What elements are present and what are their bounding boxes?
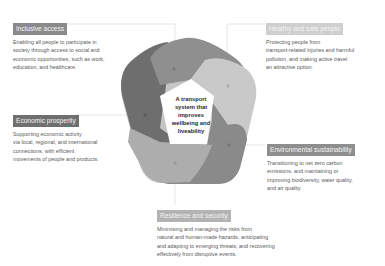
description-line: transport-related injuries and harmful — [266, 46, 384, 54]
description-line: Minimising and managing the risks from — [157, 225, 307, 233]
description-line: via local, regional, and international — [13, 138, 128, 146]
description-line: Transitioning to net zero carbon — [267, 159, 385, 167]
center-title: A transport system that improves wellbei… — [163, 95, 219, 135]
description-line: natural and human-made hazards, anticipa… — [157, 233, 307, 241]
description-line: effectively from disruptive events. — [157, 250, 307, 258]
description-line: education, and healthcare. — [13, 63, 123, 71]
outcome-description: Protecting people from transport-related… — [266, 38, 384, 72]
outcome-description: Minimising and managing the risks from n… — [157, 225, 307, 259]
outcome-label: Healthy and safe people — [266, 23, 343, 35]
dot-economic — [143, 113, 147, 117]
outcome-inclusive-access: Inclusive access Enabling all people to … — [13, 17, 123, 72]
outcome-description: Supporting economic activity via local, … — [13, 130, 128, 164]
dot-environmental — [227, 143, 231, 147]
description-line: and adapting to emerging threats, and re… — [157, 242, 307, 250]
outcome-resilience-security: Resilience and security Minimising and m… — [157, 204, 307, 259]
description-line: pollution, and making active travel — [266, 55, 384, 63]
outcome-label: Resilience and security — [157, 210, 231, 222]
outcome-label: Economic prosperity — [13, 115, 79, 127]
outcome-healthy-safe-people: Healthy and safe people Protecting peopl… — [266, 17, 384, 72]
description-line: Protecting people from — [266, 38, 384, 46]
center-title-line: A transport — [163, 95, 219, 103]
description-line: movements of people and products. — [13, 155, 128, 163]
center-title-line: improves — [163, 111, 219, 119]
description-line: connections, with efficient — [13, 147, 128, 155]
outcome-description: Enabling all people to participate in so… — [13, 38, 123, 72]
center-title-line: wellbeing and — [163, 119, 219, 127]
description-line: economic opportunities, such as work, — [13, 55, 123, 63]
outcome-economic-prosperity: Economic prosperity Supporting economic … — [13, 109, 128, 164]
description-line: improving biodiversity, water quality, — [267, 176, 385, 184]
description-line: an attractive option. — [266, 63, 384, 71]
center-title-line: liveability — [163, 127, 219, 135]
outcome-label: Inclusive access — [13, 23, 67, 35]
outcome-environmental-sustainability: Environmental sustainability Transitioni… — [267, 138, 385, 193]
dot-resilience — [173, 161, 177, 165]
description-line: Enabling all people to participate in — [13, 38, 123, 46]
outcome-description: Transitioning to net zero carbon emissio… — [267, 159, 385, 193]
dot-healthy — [226, 84, 230, 88]
description-line: emissions, and maintaining or — [267, 167, 385, 175]
description-line: Supporting economic activity — [13, 130, 128, 138]
dot-inclusive — [172, 67, 176, 71]
description-line: and air quality. — [267, 184, 385, 192]
description-line: society through access to social and — [13, 46, 123, 54]
outcome-label: Environmental sustainability — [267, 144, 355, 156]
center-title-line: system that — [163, 103, 219, 111]
